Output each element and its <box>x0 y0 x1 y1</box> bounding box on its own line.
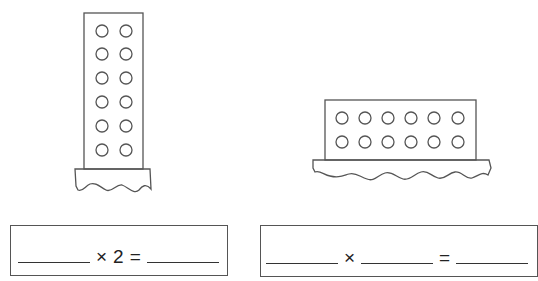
tall-brick-figure <box>75 13 151 192</box>
wide-brick-base <box>313 160 491 180</box>
tall-brick-studs <box>96 25 132 156</box>
answer-blank-factor[interactable] <box>18 261 90 263</box>
tall-brick-base <box>75 169 151 192</box>
tall-brick-body <box>84 13 143 169</box>
equation-1: × 2 = <box>18 247 219 266</box>
equals-sign: = <box>124 247 147 266</box>
answer-blank-factor-2[interactable] <box>361 262 433 264</box>
given-factor: 2 <box>113 247 124 266</box>
wide-brick-figure <box>313 100 491 180</box>
answer-blank-factor-1[interactable] <box>266 262 338 264</box>
answer-blank-product[interactable] <box>456 262 528 264</box>
multiply-sign: × <box>90 247 113 266</box>
answer-blank-product[interactable] <box>147 261 219 263</box>
equals-sign: = <box>433 248 456 267</box>
equation-box-2: × = <box>260 225 538 277</box>
equation-2: × = <box>266 248 528 267</box>
multiply-sign: × <box>338 248 361 267</box>
wide-brick-body <box>325 100 476 160</box>
wide-brick-studs <box>336 112 464 148</box>
equation-box-1: × 2 = <box>10 225 228 276</box>
